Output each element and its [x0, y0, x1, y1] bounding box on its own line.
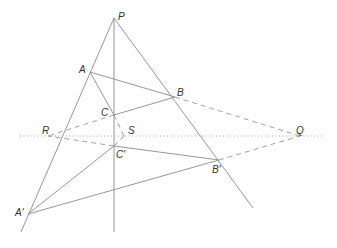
- dashed-C-prime-S: [114, 136, 124, 146]
- line-PB-prime: [114, 18, 253, 208]
- label-S: S: [128, 125, 135, 136]
- segment-B-prime-C-prime: [114, 146, 219, 160]
- label-B: B: [177, 87, 184, 98]
- segment-BC: [114, 97, 175, 115]
- dashed-B-prime-Q: [219, 136, 300, 160]
- label-R: R: [42, 125, 49, 136]
- label-A: A: [78, 64, 86, 75]
- dashed-C-prime-R: [48, 136, 114, 146]
- label-Q: Q: [296, 125, 304, 136]
- segment-A-prime-B-prime: [28, 160, 219, 214]
- label-P: P: [118, 11, 125, 22]
- segment-A-prime-C-prime: [28, 146, 114, 214]
- label-B-prime: B': [212, 164, 222, 175]
- label-A-prime: A': [14, 207, 25, 218]
- line-PA-prime: [21, 18, 114, 232]
- desargues-diagram: P A B C S R Q C' B' A': [0, 0, 337, 248]
- label-C: C: [101, 107, 109, 118]
- dashed-CR: [48, 115, 114, 136]
- label-C-prime: C': [116, 149, 126, 160]
- dashed-CS: [114, 115, 124, 136]
- dashed-BQ: [175, 97, 300, 136]
